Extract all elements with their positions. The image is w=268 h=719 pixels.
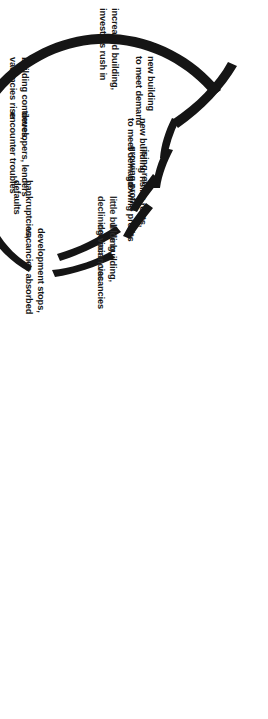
stage-label-new-building-2: new building to meet demand <box>133 56 156 125</box>
arc-segment-descend-top <box>172 62 237 128</box>
stage-label-rising-rents-2: rising rents, growing profits <box>127 146 150 211</box>
diagram-canvas: new building to meet demand rising rents… <box>0 0 268 719</box>
cycle-figure: new building to meet demand rising rents… <box>0 0 268 719</box>
stage-label-increased-building: increased building, investors rush in <box>97 8 120 90</box>
rotation-wrapper: new building to meet demand rising rents… <box>0 0 268 719</box>
stage-label-building-continues: building continues, vacancies rise <box>7 57 30 139</box>
stage-label-little-building-2: little bu lding, declining vacancies <box>95 196 118 281</box>
stage-label-development-stops: development stops, vacancies absorbed <box>23 228 46 314</box>
